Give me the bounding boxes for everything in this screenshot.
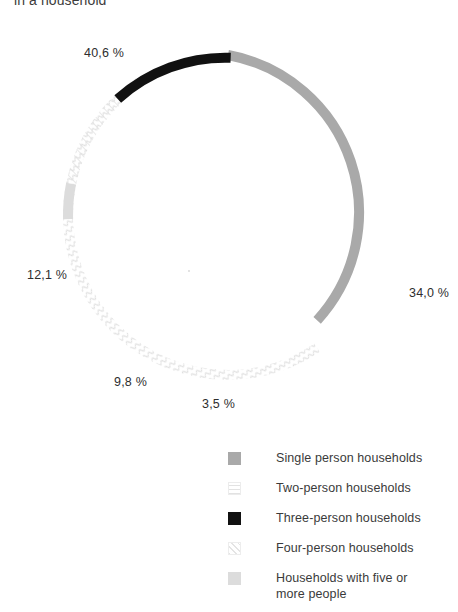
value-label-five-or-more: 3,5 %	[202, 397, 235, 412]
legend-label-single-person: Single person households	[276, 450, 422, 466]
donut-slice-single-person	[228, 55, 359, 320]
legend: Single person households Two-person hous…	[228, 450, 456, 610]
center-speck	[188, 270, 190, 272]
value-label-four-person: 9,8 %	[114, 375, 147, 390]
legend-swatch-solid-gray-icon	[228, 452, 241, 465]
donut-slice-three-person	[118, 23, 231, 134]
donut-chart	[0, 0, 458, 440]
legend-item-two-person: Two-person households	[228, 480, 456, 510]
donut-chart-svg	[0, 0, 458, 440]
value-label-single-person: 40,6 %	[84, 46, 124, 61]
legend-swatch-diagonal-hatch-icon	[228, 542, 241, 555]
legend-item-five-or-more: Households with five or more people	[228, 570, 456, 610]
value-label-three-person: 12,1 %	[27, 268, 67, 283]
donut-slice-two-person	[6, 82, 317, 437]
legend-swatch-wavy-hatch-icon	[228, 482, 241, 495]
legend-item-three-person: Three-person households	[228, 510, 456, 540]
legend-swatch-solid-light-gray-icon	[228, 572, 241, 585]
legend-label-three-person: Three-person households	[276, 510, 421, 526]
legend-item-single-person: Single person households	[228, 450, 456, 480]
legend-label-five-or-more-line1: Households with five or	[276, 571, 408, 585]
legend-label-four-person: Four-person households	[276, 540, 414, 556]
legend-label-five-or-more: Households with five or more people	[276, 570, 408, 602]
donut-slice-four-person	[71, 93, 119, 189]
legend-label-five-or-more-line2: more people	[276, 587, 347, 601]
legend-item-four-person: Four-person households	[228, 540, 456, 570]
donut-slice-five-or-more	[67, 184, 72, 219]
legend-swatch-solid-black-icon	[228, 512, 241, 525]
legend-label-two-person: Two-person households	[276, 480, 411, 496]
value-label-two-person: 34,0 %	[409, 286, 449, 301]
